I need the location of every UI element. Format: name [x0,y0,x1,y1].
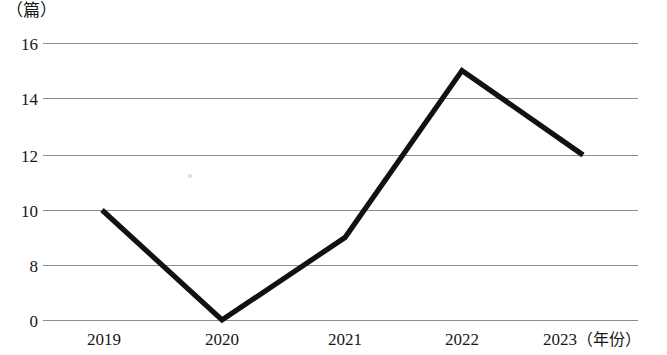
y-axis-unit-label: （篇） [6,2,57,19]
x-axis-tick-2023-with-axis-name: 2023（年份） [543,331,641,348]
x-axis-name-label: （年份） [577,331,641,348]
y-axis-tick-10: 10 [4,203,38,220]
x-axis-tick-2023-label: 2023 [543,330,577,349]
y-axis-tick-12: 12 [4,148,38,165]
gridline-0 [43,320,638,321]
line-chart: （篇） 16 14 12 10 8 0 2019 2020 2021 2022 … [0,0,667,355]
x-axis-tick-2020: 2020 [205,331,239,348]
series-line-layer [0,0,667,355]
y-axis-tick-14: 14 [4,91,38,108]
gridline-12 [43,155,638,156]
series-polyline [102,71,583,321]
y-axis-tick-16: 16 [4,36,38,53]
x-axis-tick-2019: 2019 [87,331,121,348]
y-axis-tick-0: 0 [4,313,38,330]
gridline-16 [43,43,638,44]
scan-artifact-speck [188,174,192,178]
gridline-14 [43,98,638,99]
x-axis-tick-2022: 2022 [445,331,479,348]
gridline-10 [43,210,638,211]
gridline-8 [43,265,638,266]
x-axis-tick-2021: 2021 [328,331,362,348]
y-axis-tick-8: 8 [4,258,38,275]
